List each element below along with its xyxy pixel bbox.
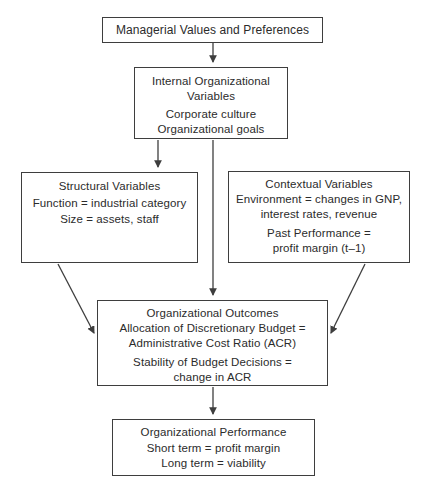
internal-org-title-line1: Internal Organizational — [135, 74, 287, 89]
structural-size: Size = assets, staff — [22, 211, 197, 228]
internal-org-corporate-culture: Corporate culture — [135, 107, 287, 122]
contextual-environment-line2: interest rates, revenue — [229, 207, 409, 222]
outcomes-allocation-line1: Allocation of Discretionary Budget = — [98, 321, 327, 336]
structural-function: Function = industrial category — [22, 195, 197, 212]
outcomes-stability-line1: Stability of Budget Decisions = — [98, 355, 327, 370]
outcomes-stability-line2: change in ACR — [98, 370, 327, 385]
managerial-values-label: Managerial Values and Preferences — [116, 23, 309, 38]
box-internal-org-variables: Internal Organizational Variables Corpor… — [134, 67, 288, 139]
internal-org-organizational-goals: Organizational goals — [135, 122, 287, 137]
box-organizational-performance: Organizational Performance Short term = … — [112, 419, 315, 476]
box-organizational-outcomes: Organizational Outcomes Allocation of Di… — [97, 300, 328, 386]
outcomes-title: Organizational Outcomes — [98, 306, 327, 321]
outcomes-allocation-line2: Administrative Cost Ratio (ACR) — [98, 336, 327, 351]
performance-long-term: Long term = viability — [113, 456, 314, 472]
performance-title: Organizational Performance — [113, 425, 314, 441]
box-structural-variables: Structural Variables Function = industri… — [21, 172, 198, 263]
box-contextual-variables: Contextual Variables Environment = chang… — [228, 171, 410, 263]
flow-diagram: Managerial Values and Preferences Intern… — [0, 0, 424, 488]
performance-short-term: Short term = profit margin — [113, 441, 314, 457]
arrow-contextual-to-outcomes — [331, 264, 365, 333]
structural-title: Structural Variables — [22, 178, 197, 195]
internal-org-title-line2: Variables — [135, 89, 287, 104]
contextual-past-performance-line2: profit margin (t–1) — [229, 241, 409, 256]
arrow-structural-to-outcomes — [58, 264, 94, 333]
contextual-title: Contextual Variables — [229, 177, 409, 192]
box-managerial-values: Managerial Values and Preferences — [102, 17, 323, 43]
contextual-past-performance-line1: Past Performance = — [229, 226, 409, 241]
contextual-environment-line1: Environment = changes in GNP, — [229, 192, 409, 207]
